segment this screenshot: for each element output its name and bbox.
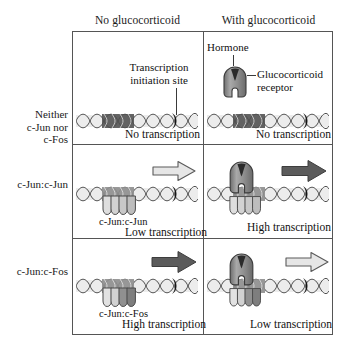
column-header-no-glucocorticoid: No glucocorticoid — [72, 14, 203, 26]
c-jun-c-jun-dimer-junjun-no — [101, 196, 137, 216]
leader-line-receptor — [247, 75, 256, 76]
arrow-low-transcription-junjun-no — [152, 160, 196, 182]
c-jun-c-fos-dimer-junfos-with — [228, 288, 262, 308]
glucocorticoid-receptor-junfos-with — [228, 253, 255, 288]
glucocorticoid-receptor-junjun-with — [228, 161, 255, 196]
row-label-neither: Neither c-Jun nor c-Fos — [2, 108, 68, 146]
arrow-low-transcription-junfos-with — [285, 251, 329, 273]
glucocorticoid-receptor-icon — [222, 66, 248, 100]
row-divider-2 — [72, 238, 333, 239]
dna-strand-neither-no — [76, 110, 198, 130]
caption-neither-with: No transcription — [256, 128, 331, 140]
row-label-neither-line2: c-Jun nor — [2, 121, 68, 134]
callout-tis-line1: Transcription — [116, 61, 202, 74]
callout-hormone: Hormone — [207, 41, 249, 54]
row-label-jun-fos: c-Jun:c-Fos — [0, 265, 68, 278]
callout-glucocorticoid-receptor: Glucocorticoid receptor — [257, 68, 343, 93]
dna-strand-junfos-no — [76, 275, 198, 295]
dna-strand-neither-with — [207, 110, 329, 130]
arrow-high-transcription-junjun-with — [281, 159, 327, 183]
caption-junjun-no: Low transcription — [125, 226, 207, 238]
c-jun-c-jun-dimer-junjun-with — [228, 196, 262, 216]
callout-receptor-line2: receptor — [257, 81, 343, 94]
column-header-with-glucocorticoid: With glucocorticoid — [203, 14, 334, 26]
row-label-neither-line3: c-Fos — [2, 133, 68, 146]
dna-strand-junfos-with — [207, 275, 329, 295]
callout-transcription-initiation-site: Transcription initiation site — [116, 61, 202, 86]
dna-strand-junjun-no — [76, 183, 198, 203]
c-jun-c-fos-dimer-junfos-no — [101, 288, 137, 308]
row-divider-1 — [72, 144, 333, 145]
row-label-neither-line1: Neither — [2, 108, 68, 121]
caption-junjun-with: High transcription — [247, 221, 331, 233]
arrow-high-transcription-junfos-no — [151, 250, 197, 274]
leader-line-hormone — [233, 55, 234, 66]
callout-receptor-line1: Glucocorticoid — [257, 68, 343, 81]
row-label-jun-jun: c-Jun:c-Jun — [2, 178, 68, 191]
callout-tis-line2: initiation site — [116, 74, 202, 87]
caption-junfos-with: Low transcription — [250, 318, 332, 330]
figure-canvas: No glucocorticoid With glucocorticoid Ne… — [0, 0, 346, 359]
column-divider — [203, 31, 204, 335]
caption-neither-no: No transcription — [125, 128, 200, 140]
caption-junfos-no: High transcription — [122, 318, 206, 330]
dna-strand-junjun-with — [207, 183, 329, 203]
